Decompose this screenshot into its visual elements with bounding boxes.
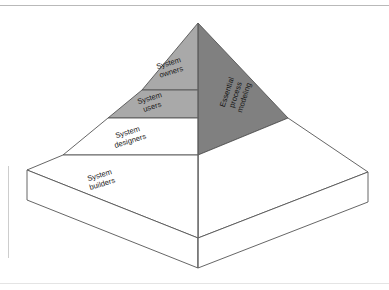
pyramid-svg: System owners System users System design… xyxy=(0,0,389,290)
left-face-tier-1 xyxy=(142,23,198,90)
pyramid-diagram: System owners System users System design… xyxy=(0,0,389,290)
pyramid-body xyxy=(27,23,368,268)
